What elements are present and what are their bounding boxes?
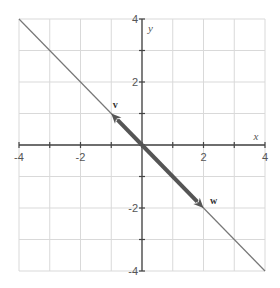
x-axis-label: x — [253, 130, 259, 142]
y-tick-label: 2 — [132, 76, 138, 88]
coordinate-plane: -4-22442-2-4xyvw — [0, 0, 280, 288]
vector-v-shaft — [118, 120, 142, 145]
x-tick-label: -4 — [14, 151, 24, 163]
vectors — [111, 114, 203, 209]
y-tick-label: -4 — [128, 265, 138, 277]
y-tick-label: -2 — [128, 202, 138, 214]
vector-w-shaft — [142, 145, 197, 202]
vector-v-label: v — [113, 99, 118, 110]
x-tick-label: -2 — [76, 151, 86, 163]
x-tick-label: 2 — [200, 151, 206, 163]
y-axis-label: y — [147, 22, 153, 34]
vector-w-label: w — [210, 195, 218, 206]
y-tick-label: 4 — [132, 13, 138, 25]
x-tick-label: 4 — [262, 151, 268, 163]
